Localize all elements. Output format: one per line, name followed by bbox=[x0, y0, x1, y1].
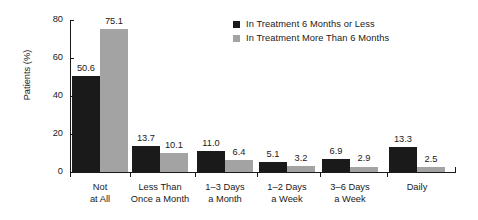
bar-value-label: 75.1 bbox=[96, 17, 132, 26]
x-axis-tick bbox=[195, 172, 196, 177]
plot-area: 020406080 50.613.711.05.16.913.375.110.1… bbox=[70, 20, 456, 172]
bar bbox=[417, 167, 445, 172]
x-axis-tick bbox=[130, 172, 131, 177]
x-axis-end-tick bbox=[455, 167, 456, 172]
y-axis-tick-label: 20 bbox=[53, 129, 63, 138]
bar-value-label: 50.6 bbox=[68, 64, 104, 73]
x-axis-tick bbox=[387, 172, 388, 177]
x-axis-line bbox=[70, 172, 456, 173]
y-axis-tick bbox=[70, 20, 74, 21]
bar-value-label: 13.3 bbox=[385, 135, 421, 144]
x-axis-tick bbox=[70, 172, 71, 177]
y-axis-tick-label: 40 bbox=[53, 91, 63, 100]
y-axis-tick-label: 80 bbox=[53, 15, 63, 24]
y-axis-tick-label: 60 bbox=[53, 53, 63, 62]
bar bbox=[160, 153, 188, 172]
bar-value-label: 2.9 bbox=[346, 154, 382, 163]
bar bbox=[287, 166, 315, 172]
bar-value-label: 6.4 bbox=[221, 148, 257, 157]
y-axis-title: Patients (%) bbox=[22, 0, 36, 150]
bar bbox=[72, 76, 100, 172]
bar bbox=[225, 160, 253, 172]
bar-value-label: 10.1 bbox=[156, 141, 192, 150]
x-axis-tick bbox=[320, 172, 321, 177]
bar bbox=[259, 162, 287, 172]
x-axis-tick bbox=[257, 172, 258, 177]
y-axis-tick bbox=[70, 58, 74, 59]
x-axis-category-label: Daily bbox=[367, 182, 467, 194]
category-label-line: a Week bbox=[300, 194, 400, 206]
bar-chart: In Treatment 6 Months or Less In Treatme… bbox=[0, 0, 478, 220]
bar bbox=[100, 29, 128, 172]
y-axis-tick-label: 0 bbox=[58, 167, 63, 176]
bar-value-label: 2.5 bbox=[413, 155, 449, 164]
bar bbox=[350, 167, 378, 173]
bar-value-label: 3.2 bbox=[283, 154, 319, 163]
category-label-line: Daily bbox=[367, 182, 467, 194]
